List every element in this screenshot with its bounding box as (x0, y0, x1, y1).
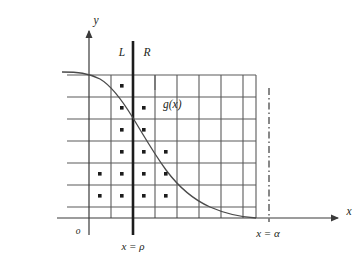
grid-lines (67, 75, 256, 218)
lattice-dot (120, 194, 124, 198)
region-right-label: R (142, 46, 150, 58)
lattice-dot (142, 194, 146, 198)
y-axis-label: y (92, 14, 99, 27)
lattice-dot (164, 150, 168, 154)
axes (57, 31, 338, 235)
lattice-dot (164, 172, 168, 176)
lattice-dot (142, 128, 146, 132)
rho-label: x = ρ (120, 240, 144, 252)
alpha-label: x = α (255, 227, 280, 239)
figure-container: y x o L R g(x) x = ρ x = α (0, 0, 364, 274)
lattice-dot (120, 172, 124, 176)
origin-label: o (76, 226, 81, 236)
lattice-dot (98, 172, 102, 176)
figure-canvas: y x o L R g(x) x = ρ x = α (0, 0, 364, 274)
curve-label: g(x) (163, 98, 182, 111)
curve-g-of-x (62, 72, 256, 218)
lattice-dot (142, 106, 146, 110)
lattice-dot (120, 106, 124, 110)
lattice-dot (164, 194, 168, 198)
lattice-dot (120, 150, 124, 154)
lattice-dot (142, 150, 146, 154)
lattice-dot (142, 172, 146, 176)
region-left-label: L (118, 46, 125, 58)
x-axis-label: x (345, 205, 352, 217)
lattice-dot (120, 128, 124, 132)
lattice-dot (98, 194, 102, 198)
lattice-dot (120, 84, 124, 88)
